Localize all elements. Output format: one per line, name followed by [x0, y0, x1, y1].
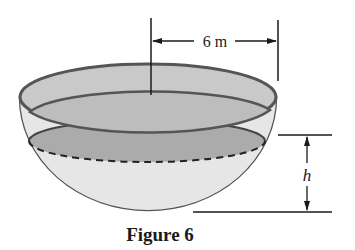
radius-label: 6 m	[203, 33, 228, 50]
hemisphere-bowl-diagram: 6 m h Figure 6	[0, 0, 355, 250]
arrowhead-down-icon	[304, 201, 310, 211]
arrowhead-left-icon	[152, 38, 162, 44]
figure-caption: Figure 6	[126, 224, 194, 245]
arrowhead-up-icon	[304, 136, 310, 146]
height-label: h	[303, 166, 312, 185]
arrowhead-right-icon	[267, 38, 277, 44]
